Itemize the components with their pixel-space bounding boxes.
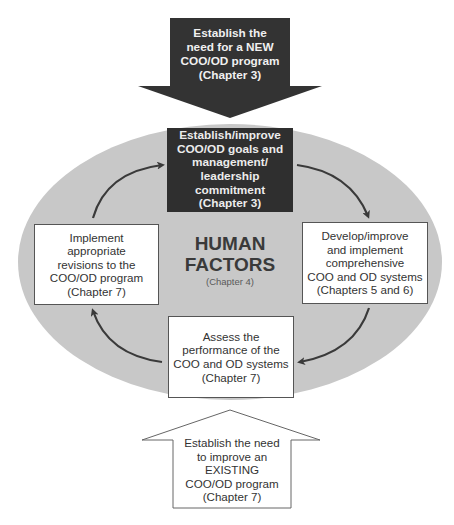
human-factors-chapter: (Chapter 4) — [160, 276, 300, 287]
step-implement-revisions: Implement appropriate revisions to the C… — [34, 224, 159, 305]
human-factors-title: HUMAN FACTORS — [160, 233, 300, 275]
existing-program-arrow-label: Establish the need to improve an EXISTIN… — [168, 436, 296, 504]
step-assess-performance: Assess the performance of the COO and OD… — [168, 316, 294, 398]
step-develop-systems: Develop/improve and implement comprehens… — [302, 222, 428, 304]
new-program-arrow-label: Establish the need for a NEW COO/OD prog… — [160, 26, 300, 82]
step-goals-commitment: Establish/improve COO/OD goals and manag… — [167, 128, 293, 212]
